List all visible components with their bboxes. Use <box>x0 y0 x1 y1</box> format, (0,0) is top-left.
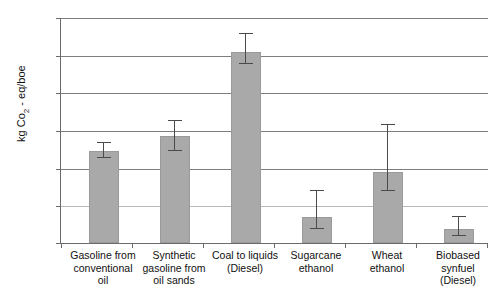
x-tick-2 <box>203 243 204 248</box>
gridline-1200 <box>61 18 488 19</box>
x-label-biobased-synfuel: Biobased synfuel (Diesel) <box>416 249 500 287</box>
bar-wheat-ethanol <box>373 172 403 243</box>
error-bar-cap-upper <box>168 120 182 121</box>
y-tick-800 <box>56 93 61 94</box>
error-bar-cap-lower <box>239 63 253 64</box>
error-bar-line <box>103 143 104 158</box>
error-bar-cap-upper <box>381 124 395 125</box>
error-bar-cap-upper <box>452 216 466 217</box>
gridline-600 <box>61 131 488 132</box>
x-tick-3 <box>274 243 275 248</box>
error-bar-line <box>245 34 246 64</box>
bar-sugarcane-ethanol <box>302 217 332 243</box>
bar-gasoline-conventional-oil <box>89 151 119 243</box>
x-label-line: (Diesel) <box>416 274 500 287</box>
y-tick-400 <box>56 169 61 170</box>
error-bar-cap-lower <box>452 235 466 236</box>
y-tick-600 <box>56 131 61 132</box>
error-bar-cap-lower <box>381 190 395 191</box>
x-label-line: oil sands <box>132 274 216 287</box>
x-tick-5 <box>416 243 417 248</box>
y-axis-title: kg Co2 - eq/boe <box>15 29 30 179</box>
x-tick-6 <box>487 243 488 248</box>
error-bar-line <box>316 191 317 229</box>
gridline-200 <box>61 206 488 207</box>
y-axis-title-suffix: - eq/boe <box>15 65 27 108</box>
y-tick-1200 <box>56 18 61 19</box>
error-bar-line <box>387 125 388 191</box>
error-bar-cap-lower <box>97 157 111 158</box>
y-tick-1000 <box>56 56 61 57</box>
error-bar-cap-upper <box>239 33 253 34</box>
bar-chart-figure: kg Co2 - eq/boe 1200 1000 800 600 400 20… <box>0 0 500 303</box>
gridline-800 <box>61 93 488 94</box>
y-axis-title-prefix: kg Co <box>15 113 27 142</box>
error-bar-line <box>458 217 459 236</box>
error-bar-cap-lower <box>310 228 324 229</box>
bar-synthetic-gasoline-oil-sands <box>160 136 190 243</box>
plot-area: 1200 1000 800 600 400 200 0 <box>60 18 487 244</box>
error-bar-cap-upper <box>310 190 324 191</box>
error-bar-cap-upper <box>97 142 111 143</box>
error-bar-cap-lower <box>168 150 182 151</box>
error-bar-line <box>174 121 175 151</box>
y-tick-200 <box>56 206 61 207</box>
x-tick-0 <box>61 243 62 248</box>
bar-coal-to-liquids <box>231 52 261 243</box>
gridline-400 <box>61 169 488 170</box>
x-tick-1 <box>132 243 133 248</box>
x-label-line: Biobased <box>416 249 500 262</box>
x-label-line: synfuel <box>416 262 500 275</box>
gridline-1000 <box>61 56 488 57</box>
y-axis-title-subscript: 2 <box>22 109 31 113</box>
x-tick-4 <box>345 243 346 248</box>
x-axis-labels: Gasoline from conventional oil Synthetic… <box>60 249 487 303</box>
bar-biobased-synfuel <box>444 229 474 243</box>
